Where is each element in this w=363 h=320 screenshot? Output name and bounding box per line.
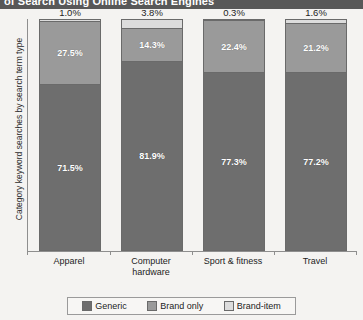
bar-group-computer-hardware[interactable]: 3.8% 14.3% 81.9% <box>121 19 183 251</box>
x-axis-label-apparel: Apparel <box>26 256 112 267</box>
chart-legend: Generic Brand only Brand-item <box>67 297 296 315</box>
plot-bars: 1.0% 27.5% 71.5% 3.8% 14.3% 81.9% <box>28 19 357 251</box>
x-label-line1: Apparel <box>26 256 112 267</box>
segment-label-generic: 77.3% <box>221 157 247 167</box>
legend-item-brand-only[interactable]: Brand only <box>147 301 203 311</box>
segment-brand-only[interactable]: 14.3% <box>122 29 182 62</box>
segment-label-brand-only: 21.2% <box>303 43 329 53</box>
segment-label-generic: 81.9% <box>139 151 165 161</box>
x-axis-label-computer-hardware: Computer hardware <box>108 256 194 277</box>
x-axis-label-travel: Travel <box>272 256 358 267</box>
stacked-bar[interactable]: 21.2% 77.2% <box>285 19 347 251</box>
stacked-bar[interactable]: 14.3% 81.9% <box>121 19 183 251</box>
segment-brand-item[interactable] <box>122 20 182 29</box>
legend-swatch-icon <box>224 301 234 311</box>
x-label-line1: Sport & fitness <box>190 256 276 267</box>
x-axis-tick <box>192 251 193 255</box>
segment-label-brand-only: 22.4% <box>221 42 247 52</box>
segment-generic[interactable]: 77.2% <box>286 73 346 250</box>
x-axis-tick <box>356 251 357 255</box>
x-axis-tick <box>274 251 275 255</box>
y-axis-label: Category keyword searches by search term… <box>14 14 24 244</box>
x-axis-tick <box>27 251 28 255</box>
stacked-bar[interactable]: 27.5% 71.5% <box>39 19 101 251</box>
legend-label: Generic <box>95 301 127 311</box>
segment-generic[interactable]: 77.3% <box>204 73 264 250</box>
segment-generic[interactable]: 81.9% <box>122 62 182 250</box>
segment-label-brand-only: 14.3% <box>139 40 165 50</box>
segment-brand-only[interactable]: 22.4% <box>204 21 264 73</box>
bar-group-apparel[interactable]: 1.0% 27.5% 71.5% <box>39 19 101 251</box>
legend-swatch-icon <box>82 301 92 311</box>
segment-label-brand-only: 27.5% <box>57 48 83 58</box>
page-title: of Search Using Online Search Engines <box>4 0 214 7</box>
stacked-bar[interactable]: 22.4% 77.3% <box>203 19 265 251</box>
bar-top-label: 0.3% <box>203 7 265 18</box>
legend-swatch-icon <box>147 301 157 311</box>
legend-item-brand-item[interactable]: Brand-item <box>224 301 281 311</box>
segment-brand-only[interactable]: 21.2% <box>286 24 346 73</box>
bar-top-label: 1.0% <box>39 7 101 18</box>
x-label-line1: Computer <box>108 256 194 267</box>
x-axis-label-sport-fitness: Sport & fitness <box>190 256 276 267</box>
segment-generic[interactable]: 71.5% <box>40 85 100 250</box>
x-label-line1: Travel <box>272 256 358 267</box>
bar-top-label: 1.6% <box>285 7 347 18</box>
bar-group-sport-fitness[interactable]: 0.3% 22.4% 77.3% <box>203 19 265 251</box>
x-axis-tick <box>110 251 111 255</box>
legend-label: Brand-item <box>237 301 281 311</box>
segment-label-generic: 71.5% <box>57 163 83 173</box>
segment-label-generic: 77.2% <box>303 157 329 167</box>
chart-area: Category keyword searches by search term… <box>0 9 363 320</box>
bar-top-label: 3.8% <box>121 7 183 18</box>
legend-item-generic[interactable]: Generic <box>82 301 127 311</box>
bar-group-travel[interactable]: 1.6% 21.2% 77.2% <box>285 19 347 251</box>
x-label-line2: hardware <box>108 267 194 278</box>
legend-label: Brand only <box>160 301 203 311</box>
segment-brand-only[interactable]: 27.5% <box>40 22 100 85</box>
